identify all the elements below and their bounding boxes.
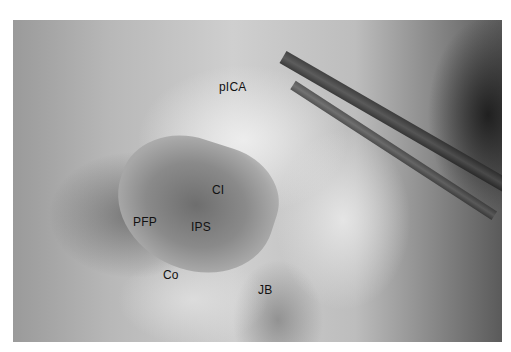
label-pfp: PFP — [133, 215, 157, 229]
label-ci: CI — [212, 183, 224, 197]
surgical-instrument — [280, 51, 503, 193]
label-pica: pICA — [219, 80, 246, 94]
label-co: Co — [163, 268, 179, 282]
surgical-cavity — [100, 118, 292, 291]
label-ips: IPS — [191, 220, 211, 234]
surgical-instrument-secondary — [290, 81, 497, 220]
label-jb: JB — [258, 283, 272, 297]
